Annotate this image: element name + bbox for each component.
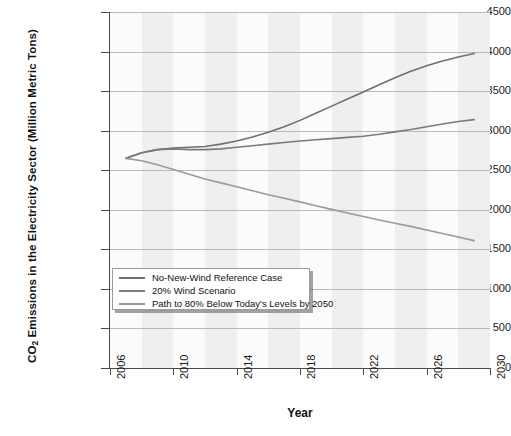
y-axis-title-rest: Emissions in the Electricity Sector (Mil… — [26, 29, 38, 341]
x-axis-tick-label: 2006 — [115, 355, 127, 379]
y-axis-tick — [101, 91, 109, 92]
y-axis-tick — [101, 289, 109, 290]
legend-label: Path to 80% Below Today's Levels by 2050 — [152, 298, 333, 310]
y-axis-tick — [101, 368, 109, 369]
series-lines — [110, 12, 490, 368]
y-axis-title-prefix: CO — [26, 346, 38, 363]
y-axis-tick — [101, 131, 109, 132]
y-axis-tick — [101, 210, 109, 211]
x-axis-tick-label: 2010 — [178, 355, 190, 379]
x-axis-tick — [300, 368, 301, 375]
x-axis-tick-label: 2018 — [305, 355, 317, 379]
y-axis-tick — [101, 12, 109, 13]
legend-swatch — [119, 277, 145, 279]
legend-label: 20% Wind Scenario — [152, 285, 235, 297]
x-axis-tick — [363, 368, 364, 375]
y-axis-tick — [101, 52, 109, 53]
legend-swatch — [119, 290, 145, 292]
y-axis-title-subscript: 2 — [30, 341, 40, 346]
series-line-1 — [126, 120, 474, 159]
x-axis-tick — [427, 368, 428, 375]
x-axis-tick-label: 2026 — [432, 355, 444, 379]
chart-legend: No-New-Wind Reference Case20% Wind Scena… — [112, 268, 310, 310]
legend-item: 20% Wind Scenario — [119, 285, 309, 297]
series-line-0 — [126, 54, 474, 159]
x-axis-tick-label: 2030 — [495, 355, 507, 379]
x-axis-tick — [490, 368, 491, 375]
x-axis-tick — [110, 368, 111, 375]
legend-item: Path to 80% Below Today's Levels by 2050 — [119, 298, 309, 310]
legend-swatch — [119, 303, 145, 305]
series-line-2 — [126, 158, 474, 240]
y-axis-tick — [101, 249, 109, 250]
x-axis-tick — [237, 368, 238, 375]
emissions-line-chart: CO2 Emissions in the Electricity Sector … — [0, 0, 511, 436]
x-axis-title: Year — [110, 406, 490, 420]
y-axis-tick — [101, 328, 109, 329]
plot-area — [110, 12, 490, 368]
y-axis-line — [109, 12, 110, 369]
y-axis-title: CO2 Emissions in the Electricity Sector … — [26, 16, 46, 376]
x-axis-tick-label: 2014 — [242, 355, 254, 379]
legend-label: No-New-Wind Reference Case — [152, 272, 282, 284]
x-axis-tick-label: 2022 — [368, 355, 380, 379]
x-axis-tick — [173, 368, 174, 375]
y-axis-tick — [101, 170, 109, 171]
legend-item: No-New-Wind Reference Case — [119, 272, 309, 284]
